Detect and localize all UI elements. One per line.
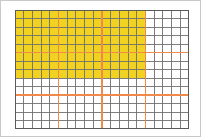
grid-cell-shaded: [15, 53, 24, 62]
grid-cell-shaded: [59, 44, 68, 53]
grid-cell-shaded: [50, 19, 59, 28]
grid-cell-shaded: [41, 19, 50, 28]
grid-cell-shaded: [137, 27, 146, 36]
grid-cell-shaded: [119, 19, 128, 28]
grid-cell-shaded: [111, 44, 120, 53]
grid-cell-shaded: [128, 27, 137, 36]
grid-cell-shaded: [85, 36, 94, 45]
grid-cell-shaded: [24, 44, 33, 53]
grid-cell-shaded: [137, 36, 146, 45]
grid-cell-shaded: [102, 53, 111, 62]
grid-cell-shaded: [128, 36, 137, 45]
grid-cell-shaded: [50, 44, 59, 53]
grid-cell-shaded: [137, 19, 146, 28]
grid-cell-shaded: [67, 53, 76, 62]
grid-cell-shaded: [50, 27, 59, 36]
grid-cell-shaded: [24, 27, 33, 36]
grid-cell-shaded: [111, 53, 120, 62]
grid-cell-shaded: [15, 61, 24, 70]
grid-cell-shaded: [50, 36, 59, 45]
grid-cell-shaded: [137, 10, 146, 19]
grid-cell-shaded: [50, 10, 59, 19]
grid-cell-shaded: [102, 70, 111, 79]
grid-cell-shaded: [67, 36, 76, 45]
grid-cell-shaded: [41, 70, 50, 79]
grid-cell-shaded: [67, 44, 76, 53]
grid-cell-shaded: [24, 70, 33, 79]
grid-cell-shaded: [59, 27, 68, 36]
grid-cell-shaded: [41, 10, 50, 19]
grid-cell-shaded: [119, 53, 128, 62]
grid-cell-shaded: [119, 44, 128, 53]
grid-cell-shaded: [24, 36, 33, 45]
grid-cell-shaded: [50, 61, 59, 70]
grid-cell-shaded: [102, 10, 111, 19]
grid-cell-shaded: [93, 19, 102, 28]
grid-cell-shaded: [128, 19, 137, 28]
grid-cell-shaded: [32, 70, 41, 79]
grid-cell-shaded: [128, 61, 137, 70]
grid-cell-shaded: [76, 19, 85, 28]
grid-cell-shaded: [111, 27, 120, 36]
grid-cell-shaded: [41, 53, 50, 62]
grid-cell-shaded: [102, 19, 111, 28]
grid-cell-shaded: [111, 36, 120, 45]
grid-cell-shaded: [93, 27, 102, 36]
grid-cell-shaded: [111, 61, 120, 70]
grid-cell-shaded: [15, 36, 24, 45]
grid-cell-shaded: [15, 70, 24, 79]
grid-cell-shaded: [93, 61, 102, 70]
grid-cell-shaded: [32, 61, 41, 70]
grid-cell-shaded: [119, 61, 128, 70]
grid-container: [15, 10, 189, 129]
grid-cell-shaded: [128, 70, 137, 79]
grid-cell-shaded: [76, 10, 85, 19]
grid-cell-shaded: [102, 36, 111, 45]
grid-cell-shaded: [41, 36, 50, 45]
grid-cell-shaded: [24, 10, 33, 19]
grid-cell-shaded: [93, 44, 102, 53]
grid-cell-shaded: [67, 70, 76, 79]
grid-cell-shaded: [59, 36, 68, 45]
grid-cell-shaded: [67, 10, 76, 19]
grid-cell-shaded: [41, 27, 50, 36]
grid-cell-shaded: [24, 61, 33, 70]
grid-cell-shaded: [111, 70, 120, 79]
grid-cell-shaded: [137, 44, 146, 53]
grid-cell-shaded: [102, 61, 111, 70]
grid-cell-shaded: [102, 44, 111, 53]
grid-cell-shaded: [67, 19, 76, 28]
grid-cell-shaded: [85, 19, 94, 28]
grid-cell-shaded: [59, 19, 68, 28]
grid-cell-shaded: [128, 10, 137, 19]
grid-cell-shaded: [76, 27, 85, 36]
grid-cell-shaded: [15, 10, 24, 19]
grid-cell-shaded: [137, 61, 146, 70]
figure-canvas: Shaded grid fraction model 120/280 120 2…: [0, 0, 202, 138]
grid-cell-shaded: [111, 10, 120, 19]
grid-cell-shaded: [119, 70, 128, 79]
grid-cell-shaded: [67, 61, 76, 70]
grid-cell-shaded: [41, 44, 50, 53]
grid-cell-shaded: [24, 19, 33, 28]
grid-cell-shaded: [59, 10, 68, 19]
grid-cell-shaded: [93, 70, 102, 79]
grid-cell-shaded: [85, 27, 94, 36]
grid-cell-shaded: [15, 27, 24, 36]
grid-cell-shaded: [41, 61, 50, 70]
grid-cell-shaded: [93, 53, 102, 62]
grid-cell-shaded: [59, 53, 68, 62]
grid-cell-shaded: [32, 44, 41, 53]
grid-cell-shaded: [76, 70, 85, 79]
grid-cell-shaded: [85, 10, 94, 19]
grid-cell-shaded: [32, 27, 41, 36]
grid-cell-shaded: [137, 53, 146, 62]
grid-cell-shaded: [85, 61, 94, 70]
grid-cell-shaded: [50, 70, 59, 79]
grid-cell-shaded: [76, 53, 85, 62]
grid-cell-shaded: [15, 44, 24, 53]
grid-cell-shaded: [102, 27, 111, 36]
grid-cell-shaded: [137, 70, 146, 79]
grid-cell-shaded: [111, 19, 120, 28]
grid-cell-shaded: [67, 27, 76, 36]
